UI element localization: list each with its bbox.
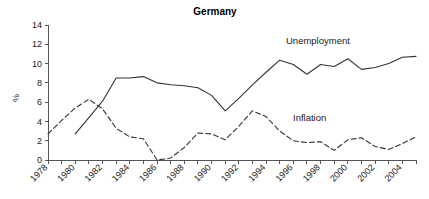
x-tick-label: 2000 [328, 162, 349, 183]
x-axis: 1978198019821984198619881990199219941996… [28, 160, 416, 184]
x-tick-label: 1990 [192, 162, 213, 183]
x-tick-label: 1978 [28, 162, 49, 183]
x-tick-label: 1996 [274, 162, 295, 183]
chart-container: Germany % 02468101214 197819801982198419… [0, 0, 429, 199]
x-tick-label: 2004 [383, 162, 404, 183]
x-tick-label: 1994 [246, 162, 267, 183]
x-tick-label: 1988 [164, 162, 185, 183]
y-tick-label: 6 [37, 97, 42, 107]
x-tick-label: 1992 [219, 162, 240, 183]
y-tick-label: 8 [37, 78, 42, 88]
series-annotations: UnemploymentInflation [286, 35, 350, 123]
x-tick-label: 1980 [55, 162, 76, 183]
y-axis: 02468101214 [32, 20, 48, 165]
x-tick-label: 2002 [355, 162, 376, 183]
line-chart-germany: Germany % 02468101214 197819801982198419… [0, 0, 429, 199]
x-tick-label: 1982 [83, 162, 104, 183]
y-axis-title: % [11, 94, 21, 102]
series-annotation-unemployment: Unemployment [286, 35, 350, 46]
x-tick-label: 1984 [110, 162, 131, 183]
x-tick-label: 1986 [137, 162, 158, 183]
x-tick-label: 1998 [301, 162, 322, 183]
y-tick-label: 10 [32, 59, 42, 69]
y-tick-label: 12 [32, 39, 42, 49]
chart-title: Germany [193, 6, 237, 17]
series-lines [48, 56, 416, 160]
series-annotation-inflation: Inflation [293, 112, 326, 123]
y-tick-label: 14 [32, 20, 42, 30]
series-line-inflation [48, 99, 416, 160]
y-tick-label: 2 [37, 136, 42, 146]
series-line-unemployment [75, 56, 416, 134]
y-tick-label: 4 [37, 117, 42, 127]
